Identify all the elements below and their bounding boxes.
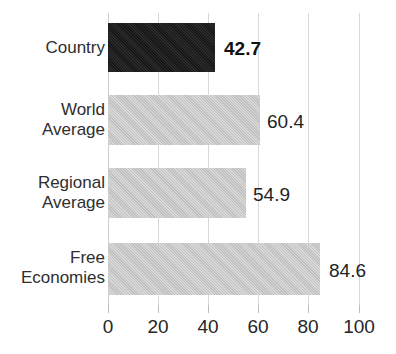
tick-mark-80 <box>308 305 309 313</box>
tick-mark-0 <box>108 305 109 313</box>
tick-label-60: 60 <box>247 317 268 336</box>
category-label-free-economies: Free Economies <box>5 248 105 288</box>
bar-free-economies[interactable] <box>108 243 320 295</box>
category-label-world-average: World Average <box>5 100 105 140</box>
bar-world-average[interactable] <box>108 95 260 145</box>
value-label-country: 42.7 <box>224 39 261 58</box>
tick-label-0: 0 <box>103 317 114 336</box>
value-label-regional-average: 54.9 <box>253 185 290 204</box>
tick-label-80: 80 <box>297 317 318 336</box>
tick-label-100: 100 <box>343 317 375 336</box>
category-label-regional-average: Regional Average <box>5 173 105 213</box>
value-label-free-economies: 84.6 <box>329 261 366 280</box>
tick-label-20: 20 <box>147 317 168 336</box>
bar-country[interactable] <box>108 23 215 72</box>
tick-mark-60 <box>258 305 259 313</box>
tick-mark-100 <box>359 305 360 313</box>
bar-chart: 42.7 60.4 54.9 84.6 Country World Averag… <box>0 0 396 354</box>
category-label-country: Country <box>5 38 105 58</box>
tick-mark-20 <box>158 305 159 313</box>
tick-mark-40 <box>208 305 209 313</box>
bar-regional-average[interactable] <box>108 168 246 218</box>
tick-label-40: 40 <box>197 317 218 336</box>
value-label-world-average: 60.4 <box>267 112 304 131</box>
